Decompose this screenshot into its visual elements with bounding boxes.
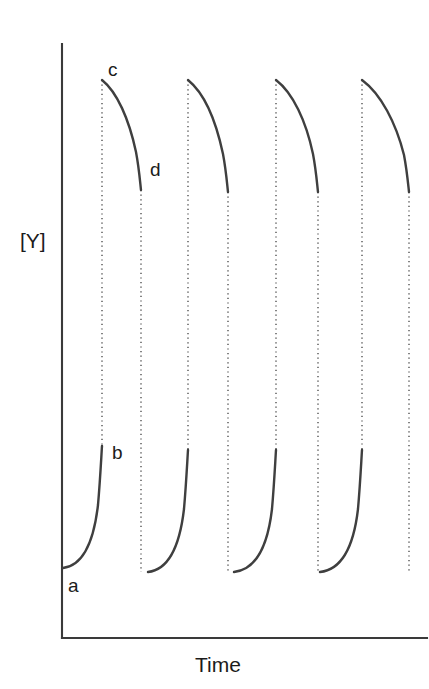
jump-dotted-lines xyxy=(102,80,362,450)
y-axis-label: [Y] xyxy=(20,229,46,252)
decay-curve-1 xyxy=(102,80,141,190)
rise-curve-2 xyxy=(148,450,188,572)
point-label-b: b xyxy=(112,442,123,463)
rise-curve-1 xyxy=(63,446,102,568)
figure-root: [Y] Time a b c d xyxy=(0,0,429,689)
x-axis-label: Time xyxy=(195,653,241,676)
rise-curve-4 xyxy=(320,450,362,572)
oscillation-plot: [Y] Time a b c d xyxy=(0,0,429,689)
decay-branch-group xyxy=(102,80,409,192)
decay-curve-3 xyxy=(276,80,318,192)
point-label-c: c xyxy=(108,59,118,80)
axes-group xyxy=(62,44,427,638)
point-label-a: a xyxy=(68,575,79,596)
decay-curve-4 xyxy=(362,80,409,192)
drop-dotted-lines xyxy=(141,190,409,572)
point-label-d: d xyxy=(150,159,161,180)
rise-branch-group xyxy=(63,446,362,572)
rise-curve-3 xyxy=(234,450,276,572)
decay-curve-2 xyxy=(188,80,228,192)
